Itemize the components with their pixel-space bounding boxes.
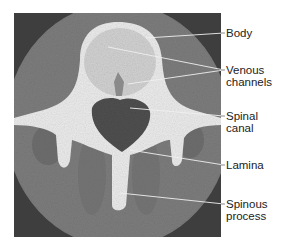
label-text: Body [226,27,252,39]
label-spinal-canal: Spinal canal [226,110,258,134]
label-spinous-process: Spinous process [226,198,268,222]
label-text: Venous [226,64,272,76]
label-text: Lamina [226,159,264,171]
label-text: process [226,210,268,222]
label-body: Body [226,27,252,39]
label-lamina: Lamina [226,159,264,171]
label-text: Spinous [226,198,268,210]
label-text: canal [226,122,258,134]
label-text: Spinal [226,110,258,122]
ct-image [6,3,230,247]
label-text: channels [226,76,272,88]
label-venous-channels: Venous channels [226,64,272,88]
